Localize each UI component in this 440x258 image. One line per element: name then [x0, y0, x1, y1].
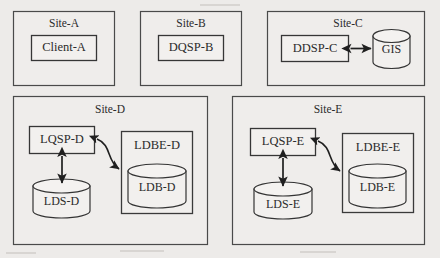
node-ldbe-d-label: LDBE-D — [134, 138, 180, 152]
site-e-group[interactable]: Site-E LDBE-E LDB-E LQSP-E LDS-E — [233, 97, 425, 245]
node-ldb-d[interactable]: LDB-D — [128, 164, 186, 208]
diagram-canvas: Site-A Client-A Site-B DQSP-B Site-C DDS… — [0, 0, 440, 258]
node-lds-e-label: LDS-E — [266, 197, 300, 211]
site-a-group[interactable]: Site-A Client-A — [14, 12, 115, 86]
node-lds-d-label: LDS-D — [44, 194, 80, 208]
site-c-label: Site-C — [333, 17, 363, 29]
node-ldbe-d[interactable]: LDBE-D LDB-D — [122, 132, 193, 214]
architecture-diagram: Site-A Client-A Site-B DQSP-B Site-C DDS… — [0, 0, 440, 258]
node-ldbe-e[interactable]: LDBE-E LDB-E — [343, 134, 414, 213]
site-e-label: Site-E — [314, 103, 343, 115]
node-lqsp-e-label: LQSP-E — [262, 134, 305, 148]
site-a-label: Site-A — [49, 17, 80, 29]
node-lds-d[interactable]: LDS-D — [33, 179, 90, 218]
node-dqsp-b-label: DQSP-B — [169, 40, 213, 54]
node-client-a-label: Client-A — [42, 40, 86, 54]
site-b-group[interactable]: Site-B DQSP-B — [141, 12, 242, 86]
site-c-group[interactable]: Site-C DDSP-C GIS — [268, 12, 425, 86]
node-ldb-e-label: LDB-E — [360, 180, 395, 194]
node-ldb-d-label: LDB-D — [139, 180, 176, 194]
site-d-label: Site-D — [95, 103, 125, 115]
node-lqsp-d-label: LQSP-D — [40, 132, 84, 146]
node-lds-e[interactable]: LDS-E — [254, 182, 312, 219]
node-ddsp-c-label: DDSP-C — [293, 41, 337, 55]
site-b-label: Site-B — [176, 17, 206, 29]
node-ldbe-e-label: LDBE-E — [356, 140, 401, 154]
node-ldb-e[interactable]: LDB-E — [349, 164, 406, 208]
node-gis[interactable]: GIS — [373, 30, 410, 69]
site-d-group[interactable]: Site-D LDBE-D LDB-D LQSP-D LDS-D — [14, 97, 208, 245]
node-gis-label: GIS — [382, 42, 401, 56]
